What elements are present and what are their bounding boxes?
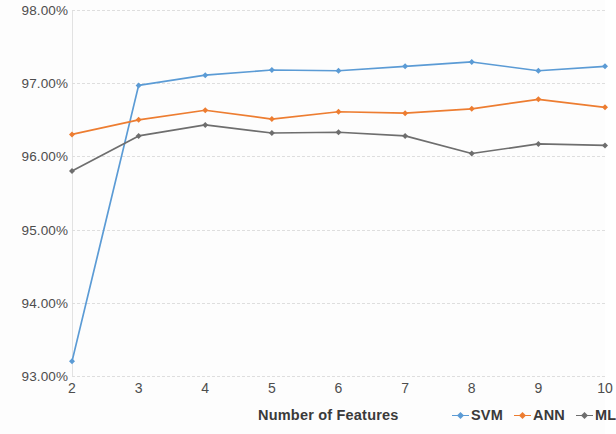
data-point-marker [202,122,208,128]
gridline [72,376,605,377]
series-svm [69,59,608,364]
data-point-marker [402,63,408,69]
data-point-marker [202,107,208,113]
data-point-marker [69,358,75,364]
x-axis-title: Number of Features [258,407,399,423]
chart-legend: SVMANNML [452,407,616,423]
x-axis-tick-label: 2 [68,380,76,396]
data-point-marker [402,110,408,116]
data-point-marker [602,142,608,148]
data-point-marker [535,141,541,147]
legend-item-ml[interactable]: ML [576,407,616,423]
data-point-marker [535,68,541,74]
x-axis-tick-label: 3 [135,380,143,396]
legend-marker-icon [514,410,531,420]
x-axis-tick-label: 8 [468,380,476,396]
legend-label: ANN [533,407,565,423]
y-axis-tick-label: 98.00% [2,3,68,18]
series-lines [72,10,605,376]
data-point-marker [136,133,142,139]
legend-label: SVM [471,407,503,423]
data-point-marker [469,150,475,156]
data-point-marker [69,131,75,137]
y-axis-tick-label: 96.00% [2,149,68,164]
y-axis-tick-labels: 98.00%97.00%96.00%95.00%94.00%93.00% [0,0,68,434]
data-point-marker [336,109,342,115]
x-axis-tick-label: 10 [597,380,613,396]
data-point-marker [269,130,275,136]
data-point-marker [269,67,275,73]
data-point-marker [69,168,75,174]
data-point-marker [469,59,475,65]
x-axis-tick-label: 5 [268,380,276,396]
data-point-marker [136,82,142,88]
legend-item-svm[interactable]: SVM [452,407,503,423]
legend-item-ann[interactable]: ANN [514,407,565,423]
legend-marker-icon [452,410,469,420]
legend-marker-icon [576,410,593,420]
data-point-marker [136,117,142,123]
data-point-marker [602,104,608,110]
series-line [72,62,605,361]
x-axis-tick-label: 9 [534,380,542,396]
data-point-marker [469,106,475,112]
data-point-marker [336,129,342,135]
y-axis-tick-label: 94.00% [2,295,68,310]
x-axis-tick-label: 7 [401,380,409,396]
series-line [72,99,605,134]
data-point-marker [535,96,541,102]
y-axis-tick-label: 97.00% [2,76,68,91]
data-point-marker [602,63,608,69]
data-point-marker [202,72,208,78]
data-point-marker [402,133,408,139]
y-axis-tick-label: 93.00% [2,369,68,384]
plot-area [72,10,605,376]
data-point-marker [269,116,275,122]
y-axis-tick-label: 95.00% [2,222,68,237]
legend-label: ML [595,407,616,423]
data-point-marker [336,68,342,74]
x-axis-tick-label: 4 [201,380,209,396]
x-axis-tick-label: 6 [335,380,343,396]
series-ml [69,122,608,174]
